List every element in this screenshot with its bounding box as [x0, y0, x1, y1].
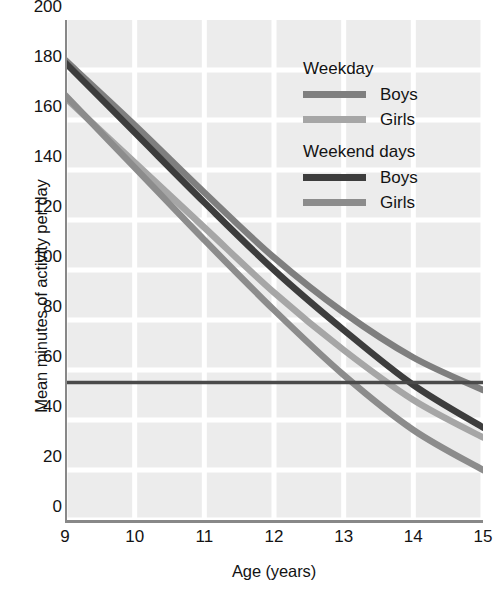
y-tick-label: 20	[6, 448, 62, 465]
legend-item-label: Boys	[380, 169, 418, 186]
y-tick-label: 0	[6, 498, 62, 515]
legend-item: Girls	[303, 190, 471, 215]
x-tick-label: 12	[254, 528, 294, 545]
y-tick-label: 80	[6, 298, 62, 315]
legend-swatch-icon	[303, 91, 366, 98]
legend-item: Boys	[303, 82, 471, 107]
y-axis-line	[65, 20, 67, 520]
x-tick-label: 14	[393, 528, 433, 545]
legend-item: Girls	[303, 107, 471, 132]
x-tick-label: 11	[184, 528, 224, 545]
legend-item: Boys	[303, 165, 471, 190]
y-tick-label: 40	[6, 398, 62, 415]
legend-swatch-icon	[303, 116, 366, 123]
x-tick-label: 10	[115, 528, 155, 545]
x-tick-label: 9	[45, 528, 85, 545]
y-tick-label: 60	[6, 348, 62, 365]
x-tick-label: 15	[463, 528, 497, 545]
legend-item-label: Girls	[380, 111, 415, 128]
legend-group-heading: Weekend days	[303, 141, 471, 163]
legend-item-label: Boys	[380, 86, 418, 103]
y-tick-label: 180	[6, 48, 62, 65]
y-tick-label: 100	[6, 248, 62, 265]
legend-group-heading: Weekday	[303, 58, 471, 80]
chart-legend: WeekdayBoysGirlsWeekend daysBoysGirls	[303, 58, 471, 215]
y-axis-tick-labels: 020406080100120140160180200	[0, 0, 62, 595]
x-tick-label: 13	[324, 528, 364, 545]
y-tick-label: 160	[6, 98, 62, 115]
y-tick-label: 140	[6, 148, 62, 165]
legend-swatch-icon	[303, 199, 366, 206]
y-tick-label: 120	[6, 198, 62, 215]
x-axis-title: Age (years)	[65, 562, 483, 581]
x-axis-line	[65, 520, 483, 523]
legend-swatch-icon	[303, 174, 366, 181]
y-tick-label: 200	[6, 0, 62, 15]
legend-item-label: Girls	[380, 194, 415, 211]
